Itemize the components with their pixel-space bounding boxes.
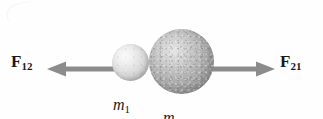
force-subscript-right: 21 <box>291 60 302 72</box>
force-label-left: F12 <box>11 53 33 72</box>
force-arrow-left-icon <box>47 62 115 77</box>
force-label-right: F21 <box>280 53 302 72</box>
mass-sphere-small <box>112 44 149 81</box>
mass-symbol-large: m <box>163 109 175 119</box>
mass-label-large: m2 <box>163 110 180 119</box>
mass-sphere-large <box>149 29 214 94</box>
force-symbol-right: F <box>280 52 291 71</box>
mass-subscript-small: 1 <box>125 103 131 115</box>
mass-label-small: m1 <box>113 97 130 115</box>
mass-subscript-large: 2 <box>175 116 181 119</box>
force-symbol-left: F <box>11 52 22 71</box>
force-pair-diagram: F12 F21 m1 m2 <box>0 0 323 119</box>
force-arrow-right-icon <box>208 62 275 77</box>
force-subscript-left: 12 <box>22 60 33 72</box>
mass-symbol-small: m <box>113 96 125 113</box>
